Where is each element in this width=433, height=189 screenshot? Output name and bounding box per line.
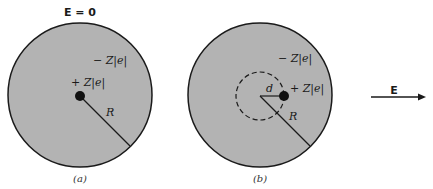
radius-label: R: [288, 110, 297, 123]
panel-a: E = 0 − Z|e| + Z|e| R (a): [8, 6, 152, 184]
nucleus-charge-label: + Z|e|: [290, 82, 324, 96]
radius-label: R: [105, 106, 114, 119]
panel-b: − Z|e| d + Z|e| R (b): [188, 23, 332, 184]
nucleus-charge-label: + Z|e|: [71, 76, 105, 90]
atom-polarization-diagram: E = 0 − Z|e| + Z|e| R (a) − Z|e| d + Z|e…: [0, 0, 433, 189]
displacement-label: d: [266, 82, 273, 95]
electron-cloud-charge-label: − Z|e|: [278, 52, 312, 66]
field-label: E: [390, 84, 398, 97]
nucleus-dot: [279, 91, 289, 101]
zero-field-label: E = 0: [64, 6, 96, 19]
electric-field-arrow: E: [371, 84, 426, 101]
caption-b: (b): [253, 173, 267, 184]
caption-a: (a): [73, 173, 87, 184]
nucleus-dot: [75, 91, 85, 101]
arrow-head-icon: [418, 94, 426, 101]
electron-cloud-charge-label: − Z|e|: [93, 54, 127, 68]
electron-cloud-sphere: [188, 23, 332, 167]
